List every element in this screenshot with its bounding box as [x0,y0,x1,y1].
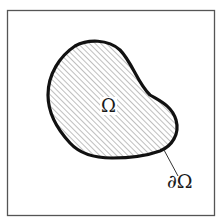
diagram-canvas: Ω ∂Ω [0,0,222,222]
region-label: Ω [100,97,117,115]
boundary-label: ∂Ω [167,172,193,191]
